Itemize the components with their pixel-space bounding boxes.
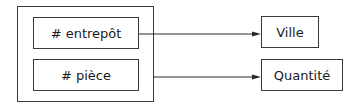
arrowhead-icon — [252, 32, 261, 37]
arrow-group-to-quantite — [154, 75, 261, 80]
edges — [0, 0, 358, 105]
arrowhead-icon — [252, 75, 261, 80]
arrow-entrepot-to-ville — [139, 32, 261, 37]
